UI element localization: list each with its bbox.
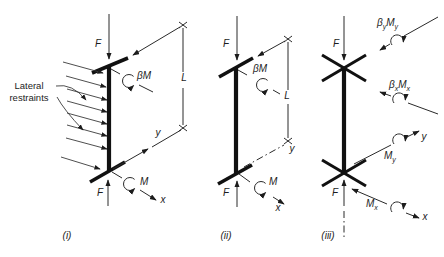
label-length-L: L [284,90,290,101]
label-F-top: F [95,38,102,49]
label-length-L: L [181,72,187,83]
label-lateral-restraints-line2: restraints [9,92,48,103]
label-F-bottom: F [97,187,104,198]
label-F-bottom: F [223,187,230,198]
label-F-bottom: F [332,187,339,198]
label-axis-y: y [421,131,428,142]
label-lateral-restraints-line1: Lateral [14,80,43,91]
label-beta-m: βM [136,70,152,81]
label-axis-y: y [289,143,296,154]
label-F-top: F [223,38,230,49]
label-axis-x: x [160,194,167,205]
caption-ii: (ii) [220,230,231,241]
label-axis-y: y [155,127,162,138]
diagram-canvas: F Lateral restraints βM [0,0,444,257]
figure-beam-end-moment-diagrams: F Lateral restraints βM [0,0,444,257]
label-F-top: F [333,38,340,49]
label-moment-M: M [269,176,278,187]
caption-iii: (iii) [321,230,334,241]
label-axis-x: x [422,211,429,222]
label-beta-m: βM [252,63,268,74]
label-moment-M: M [140,176,149,187]
label-axis-x: x [275,202,282,213]
caption-i: (i) [63,230,72,241]
